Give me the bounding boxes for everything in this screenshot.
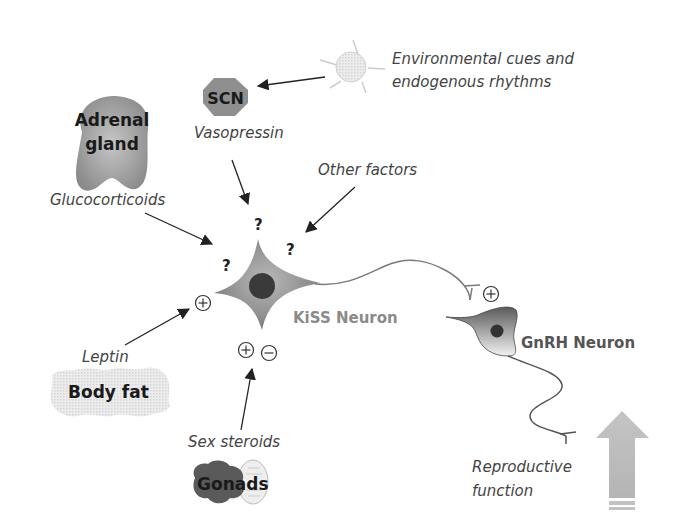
gnrh-axon-terminal (560, 432, 576, 444)
environment-label: Environmental cues and (392, 50, 575, 68)
gonads-label: Gonads (197, 474, 269, 494)
gnrh-neuron (446, 307, 517, 356)
arrow-sex-steroids (241, 369, 252, 430)
kiss-axon (315, 260, 470, 300)
glucocorticoids-label: Glucocorticoids (50, 191, 165, 209)
unknown-marker-glucocorticoids: ? (222, 257, 231, 275)
reproductive-label: Reproductive (472, 458, 572, 476)
arrow-glucocorticoids (145, 213, 212, 244)
gnrh-neuron-label: GnRH Neuron (521, 334, 635, 352)
function-label: function (472, 482, 533, 500)
vasopressin-label: Vasopressin (194, 124, 284, 142)
scn-node: SCN (203, 78, 248, 116)
unknown-marker-vasopressin: ? (254, 216, 263, 234)
arrow-environment-to-scn (258, 77, 325, 86)
kiss-axon-terminal (464, 285, 480, 300)
gonads-node: Gonads (193, 460, 268, 504)
adrenal-gland-node: Adrenal gland (75, 96, 150, 191)
arrow-other-factors (306, 187, 355, 232)
sex-steroids-label: Sex steroids (188, 433, 280, 451)
gnrh-nucleus (491, 325, 504, 338)
kiss-nucleus (249, 273, 275, 299)
plus-marker-sex-steroids (239, 343, 254, 358)
up-arrow-icon (596, 411, 649, 510)
arrow-vasopressin (232, 160, 248, 204)
environment-label-2: endogenous rhythms (392, 73, 552, 91)
adrenal-label: Adrenal (75, 110, 150, 130)
body-fat-node: Body fat (51, 368, 170, 417)
plus-marker-gnrh (484, 287, 499, 302)
scn-label: SCN (207, 89, 244, 108)
gnrh-axon (508, 356, 566, 436)
minus-marker-sex-steroids (262, 346, 277, 361)
sun-icon (320, 40, 385, 93)
leptin-label: Leptin (82, 348, 129, 366)
gland-label: gland (85, 134, 139, 154)
plus-marker-leptin (196, 296, 211, 311)
arrow-leptin (125, 309, 189, 345)
body-fat-label: Body fat (68, 382, 149, 402)
other-factors-label: Other factors (318, 161, 417, 179)
unknown-marker-other: ? (286, 241, 295, 259)
kiss-neuron-label: KiSS Neuron (293, 309, 398, 327)
